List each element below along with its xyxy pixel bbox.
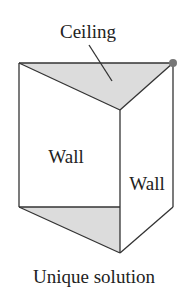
caption: Unique solution — [33, 266, 155, 287]
wall-side-label: Wall — [129, 173, 164, 194]
vertex-dot — [169, 59, 177, 67]
wall-front-label: Wall — [48, 146, 83, 167]
prism-diagram: Ceiling Wall Wall Unique solution — [0, 0, 182, 294]
ceiling-label: Ceiling — [60, 21, 116, 42]
ceiling-face — [19, 63, 173, 110]
